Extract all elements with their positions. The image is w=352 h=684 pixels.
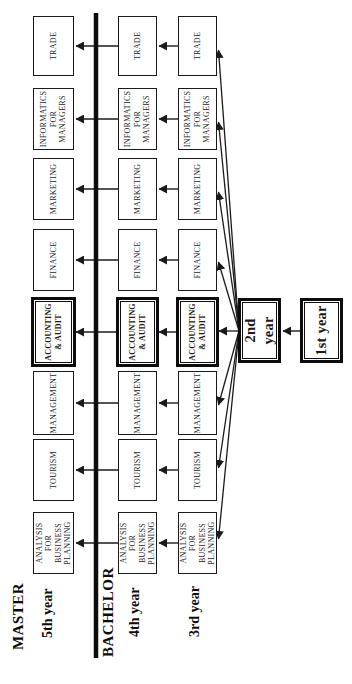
box-accounting-audit-3rd-year: ACCOUNTING & AUDIT (176, 297, 219, 367)
section-label-bachelor: BACHELOR (100, 567, 117, 657)
box-label: ANALYSIS FOR BUSINESS PLANNING (179, 513, 217, 573)
box-analysis-business-planning-3rd-year: ANALYSIS FOR BUSINESS PLANNING (178, 512, 217, 574)
box-label: MANAGEMENT (133, 371, 142, 436)
box-analysis-business-planning-4th-year: ANALYSIS FOR BUSINESS PLANNING (118, 512, 157, 574)
box-finance-3rd-year: FINANCE (178, 229, 217, 291)
year-label-3rd: 3rd year (187, 586, 203, 637)
box-label: ACCOUNTING & AUDIT (44, 300, 63, 364)
section-label-master: MASTER (10, 583, 27, 650)
box-label: TRADE (193, 30, 202, 62)
box-management-3rd-year: MANAGEMENT (178, 371, 217, 435)
box-trade-5th-year: TRADE (33, 16, 74, 76)
box-accounting-audit-4th-year: ACCOUNTING & AUDIT (116, 297, 159, 367)
box-label: ANALYSIS FOR BUSINESS PLANNING (119, 513, 157, 573)
box-label: 1st year (313, 303, 330, 357)
box-label: MANAGEMENT (193, 371, 202, 436)
box-label: MARKETING (49, 162, 58, 217)
box-marketing-4th-year: MARKETING (118, 158, 157, 220)
box-finance-4th-year: FINANCE (118, 229, 157, 291)
year2-fanout-arrows (219, 50, 240, 539)
box-trade-4th-year: TRADE (118, 16, 157, 76)
box-label: FINANCE (49, 240, 58, 281)
box-label: TRADE (49, 30, 58, 62)
box-informatics-for-managers-5th-year: INFORMATICS FOR MANAGERS (33, 88, 74, 150)
year-label-5th: 5th year (40, 589, 56, 638)
box-trade-3rd-year: TRADE (178, 16, 217, 76)
box-tourism-4th-year: TOURISM (118, 439, 157, 501)
box-label: MARKETING (193, 162, 202, 217)
box-informatics-for-managers-3rd-year: INFORMATICS FOR MANAGERS (178, 88, 217, 150)
box-informatics-for-managers-4th-year: INFORMATICS FOR MANAGERS (118, 88, 157, 150)
box-label: ANALYSIS FOR BUSINESS PLANNING (35, 513, 73, 573)
box-finance-5th-year: FINANCE (33, 229, 74, 291)
box-label: TRADE (133, 30, 142, 62)
curriculum-flowchart: MASTER 5th year BACHELOR 4th year 3rd ye… (0, 0, 352, 684)
box-label: ACCOUNTING & AUDIT (188, 300, 207, 364)
box-label: INFORMATICS FOR MANAGERS (123, 89, 151, 150)
box-label: INFORMATICS FOR MANAGERS (183, 89, 211, 150)
box-accounting-audit-5th-year: ACCOUNTING & AUDIT (31, 297, 76, 367)
box-label: TOURISM (133, 449, 142, 491)
box-label: INFORMATICS FOR MANAGERS (39, 89, 67, 150)
box-analysis-business-planning-5th-year: ANALYSIS FOR BUSINESS PLANNING (33, 512, 74, 574)
box-management-4th-year: MANAGEMENT (118, 371, 157, 435)
year3-to-year4-arrows (159, 46, 178, 543)
box-label: 2nd year (242, 301, 276, 360)
box-label: MANAGEMENT (49, 371, 58, 436)
box-label: TOURISM (193, 449, 202, 491)
box-management-5th-year: MANAGEMENT (33, 371, 74, 435)
year-label-4th: 4th year (127, 588, 143, 637)
box-label: FINANCE (133, 240, 142, 281)
box-1st-year: 1st year (300, 298, 343, 363)
box-2nd-year: 2nd year (238, 298, 281, 363)
box-label: TOURISM (49, 449, 58, 491)
box-tourism-5th-year: TOURISM (33, 439, 74, 501)
box-label: MARKETING (133, 162, 142, 217)
box-label: ACCOUNTING & AUDIT (128, 300, 147, 364)
box-tourism-3rd-year: TOURISM (178, 439, 217, 501)
box-marketing-5th-year: MARKETING (33, 158, 74, 220)
box-marketing-3rd-year: MARKETING (178, 158, 217, 220)
box-label: FINANCE (193, 240, 202, 281)
